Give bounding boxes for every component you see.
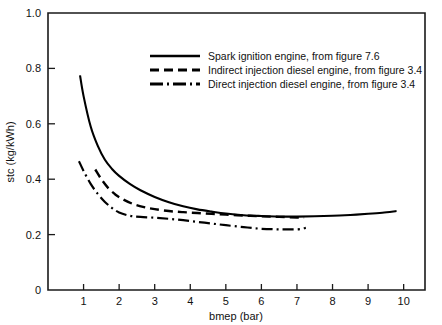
x-axis-tick-labels: 12345678910 [81,295,410,307]
data-curves [79,75,397,229]
y-axis-ticks [48,68,55,234]
chart-figure: 12345678910 00.20.40.60.81.0 bmep (bar) … [0,0,442,325]
x-tick-label: 8 [329,295,335,307]
x-axis-title: bmep (bar) [209,310,263,322]
y-tick-label: 0.2 [26,229,41,241]
y-tick-label: 0.4 [26,173,41,185]
x-tick-label: 2 [116,295,122,307]
chart-legend: Spark ignition engine, from figure 7.6 I… [150,50,422,90]
curve-spark-ignition [80,75,397,216]
x-tick-label: 4 [187,295,193,307]
y-tick-label: 1.0 [26,7,41,19]
x-tick-label: 7 [294,295,300,307]
y-axis-tick-labels: 00.20.40.60.81.0 [26,7,41,296]
x-axis-ticks [84,284,404,290]
y-tick-label: 0 [35,284,41,296]
y-axis-title: stc (kg/kWh) [4,121,16,182]
x-tick-label: 6 [258,295,264,307]
legend-label-spark-ignition: Spark ignition engine, from figure 7.6 [208,50,380,62]
legend-label-indirect-injection: Indirect injection diesel engine, from f… [208,64,422,76]
stc-vs-bmep-line-chart: 12345678910 00.20.40.60.81.0 bmep (bar) … [0,0,442,325]
x-tick-label: 3 [152,295,158,307]
y-tick-label: 0.6 [26,118,41,130]
y-tick-label: 0.8 [26,62,41,74]
x-tick-label: 9 [365,295,371,307]
legend-label-direct-injection: Direct injection diesel engine, from fig… [208,78,415,90]
x-tick-label: 1 [81,295,87,307]
x-tick-label: 10 [398,295,410,307]
x-tick-label: 5 [223,295,229,307]
